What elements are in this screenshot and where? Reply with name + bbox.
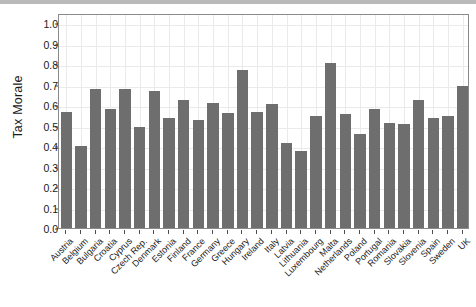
x-tick-mark — [227, 230, 228, 234]
x-tick-mark — [344, 230, 345, 234]
x-tick-mark — [256, 230, 257, 234]
x-tick-mark — [418, 230, 419, 234]
x-tick-mark — [374, 230, 375, 234]
x-tick-mark — [388, 230, 389, 234]
x-tick-mark — [300, 230, 301, 234]
x-tick-mark — [65, 230, 66, 234]
x-tick-mark — [271, 230, 272, 234]
x-tick-mark — [447, 230, 448, 234]
x-tick-mark — [139, 230, 140, 234]
x-tick-mark — [80, 230, 81, 234]
x-axis-tick-layer: AustriaBelgiumBulgariaCroatiaCyprusCzech… — [0, 0, 476, 307]
x-tick-mark — [359, 230, 360, 234]
x-tick-mark — [315, 230, 316, 234]
x-tick-mark — [124, 230, 125, 234]
x-tick-mark — [197, 230, 198, 234]
x-tick-mark — [95, 230, 96, 234]
x-tick-mark — [432, 230, 433, 234]
x-tick-mark — [286, 230, 287, 234]
x-tick-mark — [183, 230, 184, 234]
x-tick-mark — [212, 230, 213, 234]
x-tick-mark — [403, 230, 404, 234]
bar-chart-figure: Tax Morale 0.00.10.20.30.40.50.60.70.80.… — [0, 0, 476, 307]
x-tick-mark — [168, 230, 169, 234]
x-tick-mark — [153, 230, 154, 234]
x-tick-mark — [241, 230, 242, 234]
x-tick-label: UK — [456, 236, 472, 252]
x-tick-mark — [109, 230, 110, 234]
x-tick-mark — [462, 230, 463, 234]
x-tick-mark — [330, 230, 331, 234]
